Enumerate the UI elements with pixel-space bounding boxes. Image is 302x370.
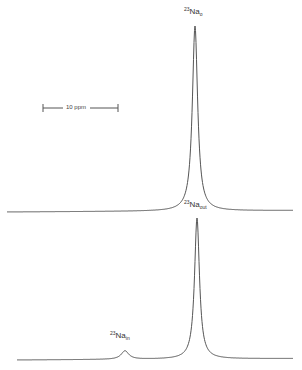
element: Na: [190, 200, 200, 209]
scale-bar-label: 10 ppm: [66, 104, 86, 110]
subscript: in: [126, 335, 130, 341]
element: Na: [190, 7, 200, 16]
element: Na: [116, 331, 126, 340]
subscript: o: [200, 11, 203, 17]
nmr-spectra-plot: [0, 0, 302, 370]
peak-label-na-out: 23Naout: [184, 199, 207, 210]
peak-label-na-o: 23Nao: [184, 6, 203, 17]
subscript: out: [200, 204, 207, 210]
bottom-spectrum-trace: [17, 218, 293, 360]
top-spectrum-trace: [7, 26, 293, 212]
peak-label-na-in: 23Nain: [110, 330, 130, 341]
